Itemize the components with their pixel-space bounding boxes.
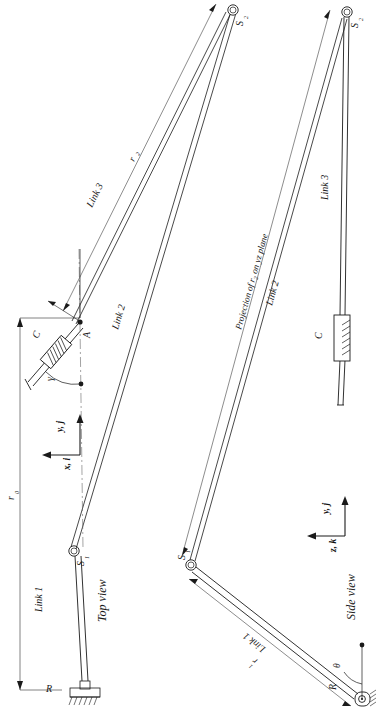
svg-text:S: S [176,555,187,560]
top-label-gamma: γ [44,376,55,381]
top-link3-label: Link 3 [83,181,105,209]
top-joint-s1 [69,546,79,556]
side-label-C: C [313,332,324,339]
top-link1-label: Link 1 [33,587,44,613]
top-axis-x-label: x, i [62,458,72,472]
svg-text:2: 2 [135,151,142,156]
svg-text:r: r [6,496,16,500]
top-link3-bar [72,12,230,324]
top-ground-support [69,681,100,705]
svg-text:r: r [127,155,138,163]
side-axis-z-label: z, k [328,539,338,553]
top-label-R: R [45,683,52,694]
side-link2-label: Link 2 [263,279,281,307]
top-link1-bar [75,556,88,681]
top-axis-y-label: y, j [55,420,65,433]
top-centerline [79,249,83,549]
svg-text:S: S [75,561,86,566]
side-label-theta: θ [332,663,342,668]
figure-canvas: R Link 1 S 1 Link 2 Link 3 [0,0,377,723]
top-view-caption: Top view [95,579,109,622]
top-label-r2: r 2 [127,151,141,163]
svg-text:2: 2 [243,16,249,19]
side-damper-c [334,315,350,361]
side-ground-pin [355,690,376,706]
side-link1-label: Link 1 [241,631,268,656]
svg-text:0: 0 [14,491,20,494]
top-point-a-dot [77,319,82,324]
side-dim-r1 [189,579,351,706]
side-label-r1: r 1 [248,656,260,670]
top-dim-r0 [17,318,80,690]
top-arrow-to-a [48,301,78,320]
svg-text:S: S [234,21,245,26]
top-view-group: R Link 1 S 1 Link 2 Link 3 [6,4,249,705]
side-joint-s2 [342,7,352,17]
side-joint-s1 [186,560,196,570]
side-link3-label: Link 3 [319,175,330,201]
side-axes [307,496,349,540]
top-label-s2: S 2 [234,16,249,26]
side-view-caption: Side view [344,574,358,620]
svg-text:1: 1 [84,556,90,559]
top-label-r0: r 0 [6,491,20,500]
side-link1-bar [192,567,358,699]
top-link2-bar [71,11,236,549]
top-label-A: A [81,331,92,339]
side-axis-y-label: y, j [321,502,331,515]
top-joint-s2 [228,5,238,15]
svg-text:S: S [349,23,360,28]
svg-text:2: 2 [358,18,364,21]
side-label-s2: S 2 [349,18,364,28]
side-view-group: R θ Link 1 r 1 S 1 [176,7,376,706]
kinematic-diagram-svg: R Link 1 S 1 Link 2 Link 3 [0,0,377,723]
top-label-s1: S 1 [75,556,90,566]
top-link2-label: Link 2 [109,303,127,331]
top-label-C: C [30,329,43,340]
top-axes [42,414,84,459]
side-projection-label: Projection of r2 on yz plane [233,233,271,332]
